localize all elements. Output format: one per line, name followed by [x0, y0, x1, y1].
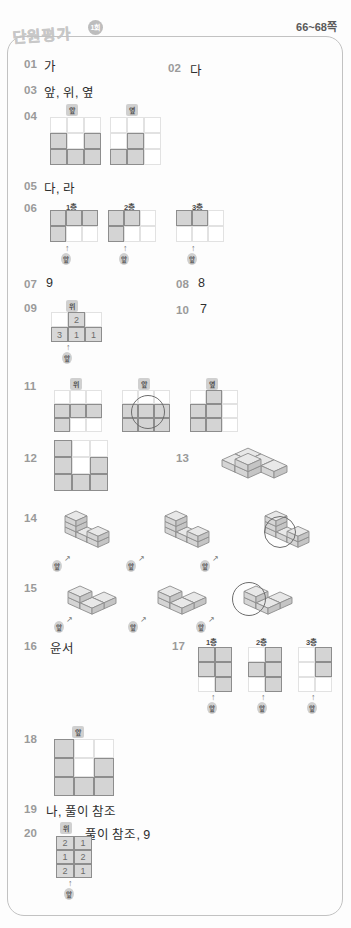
grid-cell-number: 1	[85, 327, 102, 342]
grid-cell	[206, 390, 222, 404]
grid-cell	[54, 404, 70, 418]
q14-cube-figure-2	[148, 500, 240, 560]
question-number-06: 06	[24, 202, 37, 214]
answer-05: 다, 라	[44, 178, 75, 197]
q06-layer2-grid	[108, 210, 156, 242]
grid-cell	[124, 210, 140, 226]
grid-cell	[74, 758, 94, 777]
q17-layer3-grid	[298, 647, 332, 692]
grid-cell	[51, 312, 68, 327]
question-number-19: 19	[24, 803, 37, 815]
view-label-front-q18: 앞	[72, 726, 84, 738]
answer-01: 가	[44, 56, 56, 75]
q09-top-grid: 2311	[51, 312, 102, 342]
grid-cell	[70, 390, 86, 404]
question-number-08: 08	[176, 278, 189, 290]
grid-cell	[298, 677, 315, 692]
grid-cell	[85, 312, 102, 327]
grid-cell	[124, 226, 140, 242]
q04-front-grid	[50, 117, 101, 165]
grid-cell	[192, 210, 208, 226]
grid-cell	[82, 226, 98, 242]
grid-cell	[86, 404, 102, 418]
grid-cell	[222, 404, 238, 418]
front-arrow-q06-1: ↑	[65, 244, 70, 253]
question-number-05: 05	[24, 180, 37, 192]
answer-16: 윤서	[50, 638, 74, 657]
front-arrow-q14-1: ↗	[64, 555, 71, 563]
grid-cell	[127, 117, 144, 133]
front-arrow-q15-3: ↗	[208, 616, 215, 624]
question-number-18: 18	[24, 733, 37, 745]
grid-cell	[315, 647, 332, 662]
question-number-07: 07	[24, 278, 37, 290]
question-number-04: 04	[24, 110, 37, 122]
grid-cell	[215, 677, 232, 692]
grid-cell	[86, 418, 102, 432]
front-label-q17-2: 앞	[257, 702, 267, 714]
grid-cell	[208, 226, 224, 242]
question-number-20: 20	[24, 827, 37, 839]
grid-cell	[66, 210, 82, 226]
front-label-q06-2: 앞	[119, 253, 129, 265]
grid-cell	[66, 226, 82, 242]
grid-cell	[144, 149, 161, 165]
grid-cell	[198, 647, 215, 662]
grid-cell	[72, 474, 90, 491]
grid-cell	[72, 457, 90, 474]
round-badge: 1회	[88, 20, 103, 35]
question-number-17: 17	[172, 640, 185, 652]
grid-cell	[86, 390, 102, 404]
q06-layer3-grid	[176, 210, 224, 242]
grid-cell	[54, 777, 74, 796]
q06-layer1-grid	[50, 210, 98, 242]
grid-cell	[54, 739, 74, 758]
view-label-top-q11: 위	[70, 378, 82, 390]
grid-cell	[50, 210, 66, 226]
grid-cell	[215, 647, 232, 662]
view-label-top-q09: 위	[66, 300, 78, 312]
front-label-q17-1: 앞	[207, 702, 217, 714]
front-arrow-q14-2: ↗	[138, 555, 145, 563]
grid-cell	[298, 662, 315, 677]
grid-cell	[110, 117, 127, 133]
grid-cell	[265, 662, 282, 677]
q15-cube-figure-1	[50, 568, 140, 626]
grid-cell	[70, 418, 86, 432]
q11-side-grid	[190, 390, 238, 432]
grid-cell	[54, 390, 70, 404]
grid-cell	[192, 226, 208, 242]
question-number-16: 16	[24, 640, 37, 652]
question-number-03: 03	[24, 84, 37, 96]
grid-cell	[127, 149, 144, 165]
grid-cell	[248, 662, 265, 677]
grid-cell	[74, 777, 94, 796]
front-arrow-q15-1: ↗	[66, 616, 73, 624]
grid-cell	[84, 133, 101, 149]
q18-grid	[54, 739, 114, 796]
view-label-front-q11: 앞	[138, 378, 150, 390]
grid-cell	[72, 440, 90, 457]
grid-cell	[208, 210, 224, 226]
front-label-q15-3: 앞	[196, 621, 206, 633]
grid-cell	[206, 404, 222, 418]
grid-cell	[127, 133, 144, 149]
grid-cell	[108, 226, 124, 242]
grid-cell	[50, 149, 67, 165]
front-arrow-q20: ↑	[68, 879, 73, 888]
grid-cell	[90, 474, 108, 491]
q04-side-grid	[110, 117, 161, 165]
answer-02: 다	[190, 60, 202, 79]
grid-cell	[90, 440, 108, 457]
grid-cell	[94, 739, 114, 758]
question-number-14: 14	[24, 512, 37, 524]
view-label-side-q11: 옆	[206, 378, 218, 390]
question-number-11: 11	[24, 380, 36, 392]
front-arrow-q17-3: ↑	[311, 693, 316, 702]
layer-label-2-q17: 2층	[256, 636, 267, 647]
q14-circle-annotation	[264, 516, 296, 548]
grid-cell	[54, 758, 74, 777]
grid-cell-number: 2	[74, 850, 92, 864]
q11-top-grid	[54, 390, 102, 432]
grid-cell	[108, 210, 124, 226]
